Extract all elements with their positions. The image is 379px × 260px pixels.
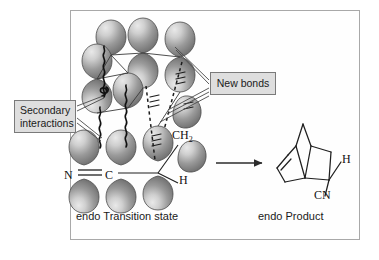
caption-transition-state: endo Transition state xyxy=(76,210,178,222)
orbital-lobe xyxy=(113,73,143,108)
orbital-lobe xyxy=(143,176,173,210)
callout-secondary-interactions[interactable]: Secondary interactions xyxy=(14,100,76,133)
orbital-lobe xyxy=(128,18,158,53)
atom-label-carbon: C xyxy=(105,168,113,183)
atom-label-nitrogen: N xyxy=(64,168,73,183)
callout-new-bonds[interactable]: New bonds xyxy=(210,72,276,95)
methylene-text: CH xyxy=(172,128,189,142)
orbital-lobe xyxy=(173,96,201,128)
product-structure xyxy=(277,124,341,196)
nitrile-bond xyxy=(78,170,102,175)
orbital-lobe xyxy=(69,179,99,213)
caption-product: endo Product xyxy=(258,210,323,222)
orbital-lobe xyxy=(106,130,136,165)
orbital-lobe-group-third xyxy=(82,73,143,113)
orbital-lobe xyxy=(143,126,173,161)
atom-label-hydrogen-product: H xyxy=(342,152,351,167)
atom-label-cyano-product: CN xyxy=(314,188,331,203)
orbital-lobe-group-bottom xyxy=(69,176,173,213)
figure-stage: Secondary interactions New bonds N C CH2… xyxy=(0,0,379,260)
orbital-lobe xyxy=(69,130,99,165)
atom-label-hydrogen-transition-state: H xyxy=(179,173,188,188)
orbital-lobe-group-top xyxy=(96,18,195,57)
orbital-lobe xyxy=(178,141,206,172)
orbital-lobe xyxy=(106,179,136,213)
methylene-subscript: 2 xyxy=(189,135,193,144)
atom-label-methylene: CH2 xyxy=(172,128,193,144)
orbital-lobe xyxy=(82,79,112,113)
